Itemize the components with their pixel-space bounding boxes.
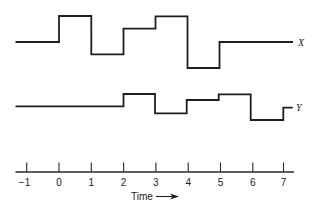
timing-diagram: X Y −1 0 1 2 3 4 5 6 7 Time <box>0 0 316 214</box>
time-arrow-icon <box>156 194 179 200</box>
time-axis-tick-labels: −1 0 1 2 3 4 5 6 7 <box>19 177 287 188</box>
tick-label: 5 <box>218 177 224 188</box>
signal-y-waveform <box>16 94 293 120</box>
tick-label: 1 <box>89 177 95 188</box>
signal-x-label: X <box>297 37 305 48</box>
signal-y-label: Y <box>296 102 303 113</box>
tick-label: 3 <box>153 177 159 188</box>
tick-label: 0 <box>56 177 62 188</box>
time-axis-ticks <box>27 163 284 173</box>
tick-label: 4 <box>185 177 191 188</box>
tick-label: 6 <box>250 177 256 188</box>
tick-label: 7 <box>281 177 287 188</box>
time-axis-label: Time <box>131 191 153 202</box>
tick-label: 2 <box>121 177 127 188</box>
signal-x-waveform <box>16 16 294 68</box>
tick-label: −1 <box>19 177 31 188</box>
